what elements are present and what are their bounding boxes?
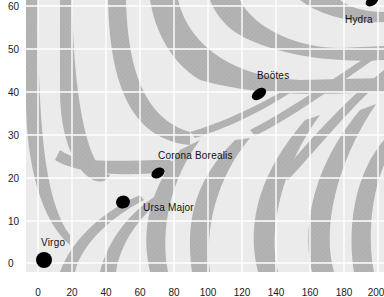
x-tick-label: 200 xyxy=(368,287,384,297)
x-tick-label: 100 xyxy=(200,287,217,297)
y-tick-label: 10 xyxy=(8,216,20,227)
label-ursa-major: Ursa Major xyxy=(143,202,194,213)
label-bootes: Boötes xyxy=(257,70,289,81)
label-hydra: Hydra xyxy=(345,14,373,25)
x-tick-label: 140 xyxy=(268,287,285,297)
y-tick-label: 60 xyxy=(8,1,20,12)
x-tick-label: 80 xyxy=(168,287,180,297)
y-axis: 60 50 40 30 20 10 0 xyxy=(8,1,20,269)
y-tick-label: 20 xyxy=(8,173,20,184)
x-axis: 0 20 40 60 80 100 120 140 160 180 200 xyxy=(35,287,384,297)
y-tick-label: 40 xyxy=(8,87,20,98)
label-virgo: Virgo xyxy=(41,237,65,248)
x-tick-label: 20 xyxy=(66,287,78,297)
y-tick-label: 30 xyxy=(8,130,20,141)
x-tick-label: 180 xyxy=(336,287,353,297)
x-tick-label: 40 xyxy=(100,287,112,297)
chart: 60 50 40 30 20 10 0 0 20 40 60 80 100 12… xyxy=(0,0,384,297)
x-tick-label: 60 xyxy=(134,287,146,297)
y-tick-label: 0 xyxy=(8,258,14,269)
point-virgo xyxy=(36,252,52,268)
x-tick-label: 160 xyxy=(302,287,319,297)
y-tick-label: 50 xyxy=(8,44,20,55)
label-corona-borealis: Corona Borealis xyxy=(158,150,233,161)
x-tick-label: 120 xyxy=(234,287,251,297)
x-tick-label: 0 xyxy=(35,287,41,297)
